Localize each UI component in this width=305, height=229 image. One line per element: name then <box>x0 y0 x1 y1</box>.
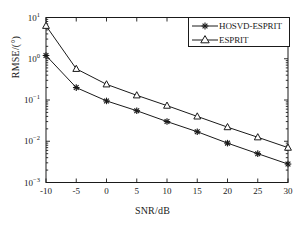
y-tick-4: 10−3 <box>0 178 40 187</box>
legend-item-esprit: ESPRIT <box>189 33 289 47</box>
x-tick-0: -10 <box>40 187 52 196</box>
figure-rmse-vs-snr: 10110010−110−210−3 -10-5051015202530 SNR… <box>0 0 305 229</box>
legend-label-hosvd-esprit: HOSVD-ESPRIT <box>219 21 282 31</box>
y-axis-label: RMSE/(°) <box>10 36 21 78</box>
data-point-0-7 <box>254 150 261 157</box>
data-point-0-3 <box>133 107 140 114</box>
x-tick-7: 25 <box>253 187 262 196</box>
legend-marker-triangle-icon <box>191 33 219 47</box>
data-point-0-6 <box>224 140 231 147</box>
y-tick-3: 10−2 <box>0 137 40 146</box>
x-tick-4: 10 <box>163 187 172 196</box>
data-point-0-2 <box>103 98 110 105</box>
data-point-1-2 <box>103 81 110 87</box>
x-tick-3: 5 <box>135 187 140 196</box>
legend-label-esprit: ESPRIT <box>219 35 248 45</box>
data-point-0-0 <box>43 52 50 59</box>
x-axis-label: SNR/dB <box>0 205 305 216</box>
data-point-0-4 <box>164 118 171 125</box>
data-point-0-1 <box>73 84 80 91</box>
legend-marker-star-icon <box>191 19 219 33</box>
data-point-1-0 <box>43 22 50 28</box>
y-axis-label-container: RMSE/(°) <box>5 7 19 107</box>
data-point-0-8 <box>285 161 292 168</box>
x-tick-1: -5 <box>73 187 81 196</box>
legend: HOSVD-ESPRIT ESPRIT <box>188 17 290 47</box>
x-tick-8: 30 <box>284 187 293 196</box>
x-tick-6: 20 <box>223 187 232 196</box>
x-tick-5: 15 <box>193 187 202 196</box>
x-tick-2: 0 <box>104 187 109 196</box>
data-point-0-5 <box>194 128 201 135</box>
legend-item-hosvd-esprit: HOSVD-ESPRIT <box>189 19 289 33</box>
